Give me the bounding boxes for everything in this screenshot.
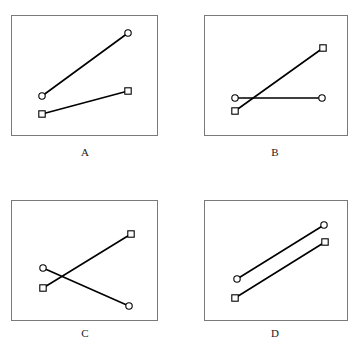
panel-d-square-line (235, 242, 325, 298)
panel-d-square-marker-2 (322, 239, 328, 245)
panel-d-label: D (255, 327, 295, 339)
panel-d-plot (0, 0, 362, 352)
panel-d-circle-marker-1 (234, 276, 240, 282)
interaction-plot-figure: A B C (0, 0, 362, 352)
panel-d-square-marker-1 (232, 295, 238, 301)
panel-d-circle-marker-2 (321, 222, 327, 228)
panel-d-circle-line (237, 225, 324, 279)
